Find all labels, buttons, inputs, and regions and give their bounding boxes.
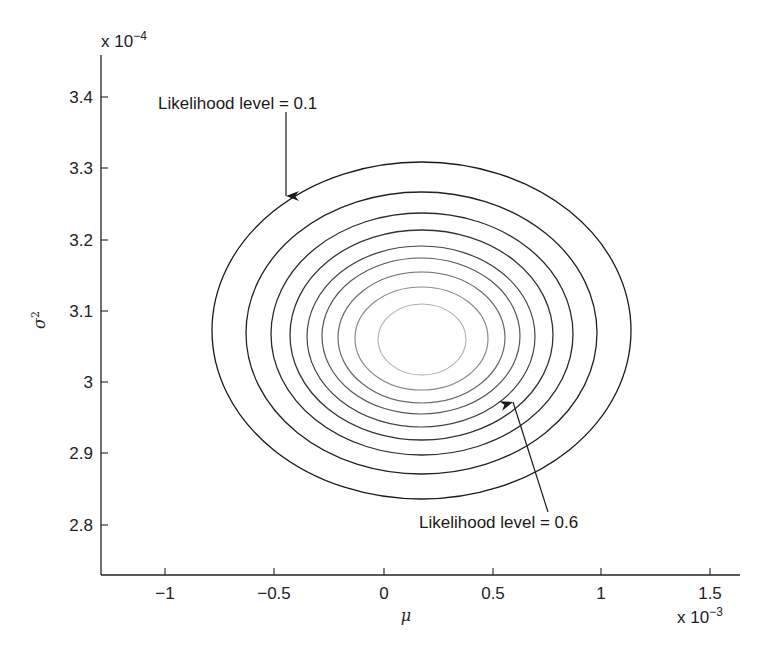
- x-axis-label: μ: [401, 606, 411, 625]
- x-tick-label: 1.5: [698, 584, 722, 603]
- annotation-label: Likelihood level = 0.6: [419, 513, 578, 532]
- x-ticks: [165, 568, 710, 575]
- x-tick-label: −1: [155, 584, 174, 603]
- x-tick-label: 1: [596, 584, 605, 603]
- contour-level-0.5: [307, 246, 535, 427]
- contour-lines: [212, 162, 631, 499]
- contour-level-0.7: [338, 272, 505, 403]
- contour-level-0.4: [290, 230, 553, 440]
- y-tick-label: 3.1: [69, 302, 93, 321]
- y-axis-label: σ2: [29, 311, 49, 329]
- y-tick-label: 3.3: [69, 159, 93, 178]
- contour-plot: x 10−4 3.4 3.3 3.2 3.1 3 2.9 2.8 −1 −0.5…: [0, 0, 766, 652]
- annotation-label: Likelihood level = 0.1: [158, 94, 317, 113]
- y-tick-label: 3.2: [69, 231, 93, 250]
- y-tick-label: 2.8: [69, 516, 93, 535]
- contour-level-0.9: [378, 304, 466, 375]
- contour-level-0.6: [322, 258, 520, 414]
- axes: [101, 55, 740, 575]
- y-axis-multiplier: x 10−4: [101, 29, 147, 51]
- annotation-level-0.1: Likelihood level = 0.1: [158, 94, 317, 196]
- x-tick-labels: −1 −0.5 0 0.5 1 1.5: [155, 584, 722, 603]
- y-tick-labels: 3.4 3.3 3.2 3.1 3 2.9 2.8: [69, 88, 93, 535]
- y-tick-label: 3.4: [69, 88, 93, 107]
- x-axis-multiplier: x 10−3: [677, 605, 723, 627]
- x-tick-label: −0.5: [257, 584, 291, 603]
- y-ticks: [101, 97, 108, 525]
- annotation-level-0.6: Likelihood level = 0.6: [419, 402, 578, 532]
- x-tick-label: 0: [379, 584, 388, 603]
- contour-level-0.2: [246, 192, 597, 474]
- contour-level-0.3: [271, 213, 573, 455]
- y-tick-label: 2.9: [69, 444, 93, 463]
- x-tick-label: 0.5: [481, 584, 505, 603]
- y-tick-label: 3: [84, 373, 93, 392]
